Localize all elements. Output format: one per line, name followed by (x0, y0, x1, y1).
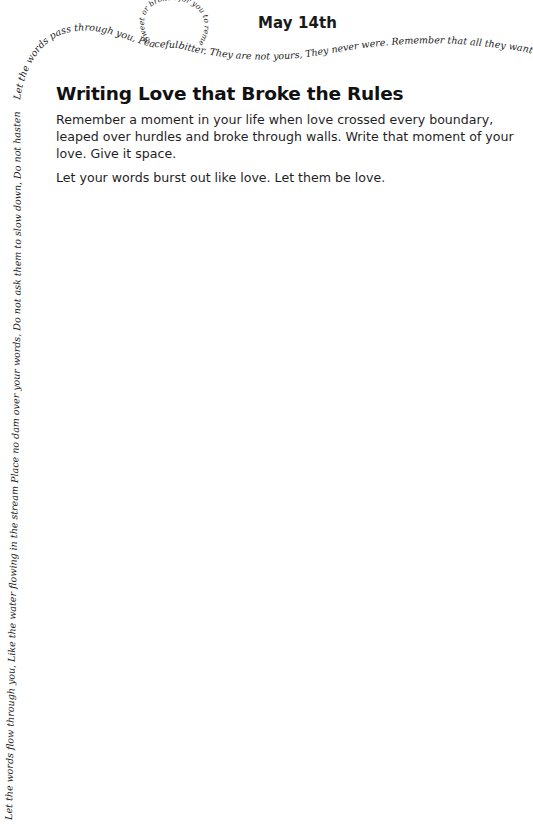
prompt-paragraph: Let your words burst out like love. Let … (56, 169, 518, 186)
prompt-title: Writing Love that Broke the Rules (56, 83, 403, 104)
prompt-paragraph: Remember a moment in your life when love… (56, 111, 518, 162)
journal-page: Let the words flow through you, Like the… (0, 0, 533, 829)
left-margin-poem: Let the words flow through you, Like the… (0, 0, 23, 821)
prompt-body: Remember a moment in your life when love… (56, 111, 518, 193)
page-date: May 14th (258, 14, 337, 32)
